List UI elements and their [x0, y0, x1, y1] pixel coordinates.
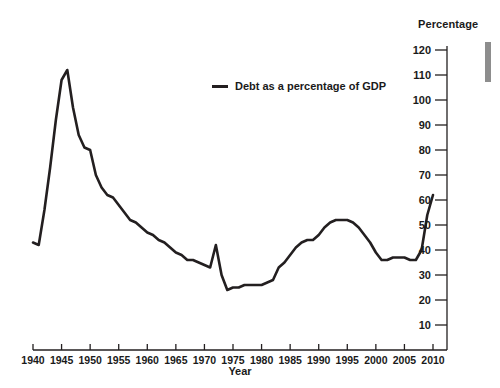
debt-gdp-line-chart: Percentage 120110100908070605040302010 1…	[0, 0, 500, 388]
y-tick-label-60: 60	[403, 194, 431, 206]
x-axis-title: Year	[0, 365, 480, 377]
y-tick-label-90: 90	[403, 119, 431, 131]
y-tick-label-50: 50	[403, 219, 431, 231]
chart-legend: Debt as a percentage of GDP	[212, 80, 386, 92]
data-series-group	[33, 70, 433, 290]
legend-line-swatch	[212, 85, 228, 88]
y-tick-label-20: 20	[403, 294, 431, 306]
y-tick-label-80: 80	[403, 144, 431, 156]
legend-label: Debt as a percentage of GDP	[235, 80, 386, 92]
series-line-debt-as-a-percentage-of-gdp	[33, 70, 433, 290]
y-tick-label-100: 100	[403, 94, 431, 106]
y-tick-label-70: 70	[403, 169, 431, 181]
y-axis-ticks	[435, 50, 447, 325]
y-tick-label-40: 40	[403, 244, 431, 256]
y-tick-label-120: 120	[403, 44, 431, 56]
x-axis-ticks	[33, 344, 433, 350]
y-tick-label-30: 30	[403, 269, 431, 281]
y-tick-label-110: 110	[403, 69, 431, 81]
y-tick-label-10: 10	[403, 319, 431, 331]
